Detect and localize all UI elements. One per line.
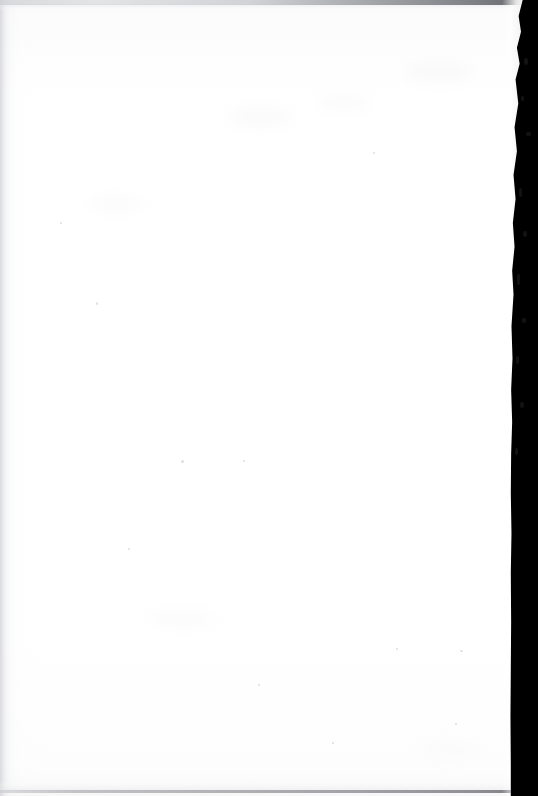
page-body-text xyxy=(58,64,478,724)
page-left-edge-shading xyxy=(0,0,14,796)
page-top-edge-soft xyxy=(0,4,538,11)
page-top-edge xyxy=(0,0,538,5)
scanned-page-root xyxy=(0,0,538,796)
page-bottom-edge xyxy=(0,790,538,793)
